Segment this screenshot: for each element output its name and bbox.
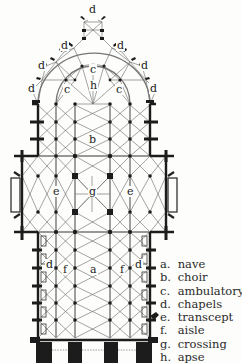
label-chapel: d [37, 60, 46, 71]
label-nave: a [89, 264, 98, 275]
legend-key: c. [160, 285, 174, 298]
legend-item: h. apse [160, 351, 242, 363]
legend-key: d. [160, 298, 174, 311]
legend-label: aisle [178, 323, 205, 337]
label-transcept: e [126, 186, 135, 197]
west-facade [30, 312, 159, 363]
label-ambulatory: c [63, 84, 71, 95]
legend-key: g. [160, 338, 174, 351]
legend-label: apse [178, 350, 205, 363]
legend-label: choir [178, 270, 208, 284]
label-chapel: d [88, 4, 97, 15]
label-chapel: d [149, 83, 158, 94]
label-crossing: g [88, 186, 97, 197]
label-chapel: d [116, 40, 125, 51]
label-ambulatory: c [89, 64, 97, 75]
legend-key: e. [160, 311, 174, 324]
legend-item: f. aisle [160, 324, 242, 337]
legend-item: a. nave [160, 258, 242, 271]
legend-item: d. chapels [160, 298, 242, 311]
legend-label: nave [178, 257, 206, 271]
legend-key: h. [160, 351, 174, 363]
label-chapel: d [134, 259, 143, 270]
label-ambulatory: c [115, 84, 123, 95]
legend-label: ambulatory [178, 284, 242, 298]
legend-label: chapels [178, 297, 222, 311]
label-chapel: d [45, 259, 54, 270]
legend-label: transcept [178, 310, 234, 324]
label-choir: b [88, 134, 97, 145]
label-apse: h [89, 80, 98, 91]
label-transcept: e [52, 186, 61, 197]
legend-item: e. transcept [160, 311, 242, 324]
legend-item: b. choir [160, 271, 242, 284]
legend-label: crossing [178, 337, 227, 351]
legend-key: a. [160, 258, 174, 271]
legend: a. nave b. choir c. ambulatory d. chapel… [160, 258, 242, 363]
legend-item: g. crossing [160, 338, 242, 351]
label-chapel: d [140, 60, 149, 71]
legend-key: b. [160, 271, 174, 284]
legend-item: c. ambulatory [160, 285, 242, 298]
label-aisle: f [62, 264, 68, 275]
label-chapel: d [27, 83, 36, 94]
label-aisle: f [119, 264, 125, 275]
label-chapel: d [60, 40, 69, 51]
legend-key: f. [160, 324, 174, 337]
